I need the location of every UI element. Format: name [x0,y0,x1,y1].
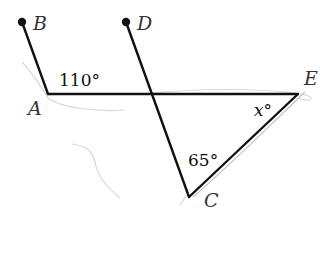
angle-label-aec: x° [254,100,272,120]
point-d-dot [122,18,130,26]
segment-dc [126,22,189,197]
label-e: E [303,67,318,89]
geometry-diagram: B D A E C 110° 65° x° [0,0,320,260]
label-a: A [26,97,42,119]
angle-label-ecd: 65° [188,150,218,170]
label-c: C [204,189,219,211]
point-b-dot [18,18,26,26]
label-d: D [136,12,152,34]
label-b: B [32,12,47,34]
segment-ec [189,94,298,197]
angle-label-bae: 110° [59,70,100,90]
